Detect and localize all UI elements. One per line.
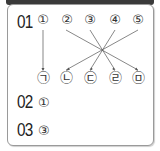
bottom-item-4: ㉣: [108, 71, 122, 85]
bottom-item-2: ㉡: [59, 71, 73, 85]
bottom-item-3: ㉢: [83, 71, 97, 85]
bottom-item-1: ㉠: [36, 71, 50, 85]
bottom-item-5: ㉤: [131, 71, 145, 85]
answer-03: ③: [38, 123, 50, 138]
answer-02: ①: [38, 95, 50, 110]
question-number-03: 03: [17, 120, 32, 141]
question-number-02: 02: [17, 92, 32, 113]
